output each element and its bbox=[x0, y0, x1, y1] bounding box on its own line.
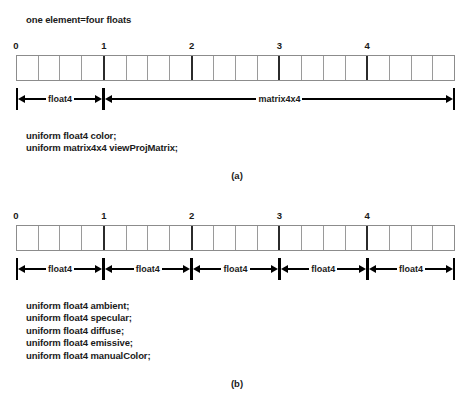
figure-a-span-label: float4 bbox=[46, 94, 74, 104]
figure-b-span-cap-right bbox=[453, 258, 455, 280]
arrow-right-icon bbox=[95, 265, 102, 273]
figure-a-cell bbox=[280, 56, 302, 80]
figure-b-span-rule bbox=[376, 268, 397, 269]
figure-b-cell bbox=[127, 226, 149, 250]
figure-a-register-bar bbox=[16, 55, 455, 81]
figure-b-cell bbox=[193, 226, 215, 250]
arrow-left-icon bbox=[18, 95, 25, 103]
figure-b-cell bbox=[346, 226, 369, 250]
figure-a-cell bbox=[324, 56, 346, 80]
figure-b-span-rule bbox=[200, 268, 221, 269]
arrow-right-icon bbox=[446, 265, 453, 273]
figure-a-cell bbox=[17, 56, 39, 80]
figure-b-tick-3: 3 bbox=[277, 210, 282, 222]
figure-a-span-label: matrix4x4 bbox=[256, 94, 302, 104]
figure-a-span-rule bbox=[112, 98, 256, 99]
figure-b-cell bbox=[170, 226, 193, 250]
figure-a-tick-1: 1 bbox=[101, 40, 106, 52]
arrow-left-icon bbox=[193, 265, 200, 273]
figure-a-cell bbox=[368, 56, 390, 80]
figure-b-cell bbox=[60, 226, 82, 250]
arrow-right-icon bbox=[446, 95, 453, 103]
figure-a-cell bbox=[105, 56, 127, 80]
figure-b-code-line: uniform float4 specular; bbox=[26, 312, 151, 324]
arrow-right-icon bbox=[183, 265, 190, 273]
arrow-right-icon bbox=[359, 265, 366, 273]
figure-b-span-rule bbox=[25, 268, 46, 269]
figure-b-span: float4 bbox=[279, 258, 367, 280]
figure-a-cell bbox=[214, 56, 236, 80]
figure-a-cell bbox=[390, 56, 412, 80]
figure-a-span-rule bbox=[74, 98, 95, 99]
figure-a-cell bbox=[39, 56, 61, 80]
figure-a-cell bbox=[433, 56, 454, 80]
figure-b-span-rule bbox=[74, 268, 95, 269]
figure-a-cell bbox=[127, 56, 149, 80]
figure-a-tick-0: 0 bbox=[13, 40, 18, 52]
figure-b-code-line: uniform float4 emissive; bbox=[26, 337, 151, 349]
figure-b-span-rule bbox=[425, 268, 446, 269]
figure-b-span-label: float4 bbox=[134, 264, 162, 274]
figure-a-cell bbox=[170, 56, 193, 80]
figure-b-cell bbox=[433, 226, 454, 250]
figure-b-span-label: float4 bbox=[46, 264, 74, 274]
figure-b-code-line: uniform float4 manualColor; bbox=[26, 350, 151, 362]
figure-b-cell bbox=[280, 226, 302, 250]
figure-b-cell bbox=[368, 226, 390, 250]
figure-b-cell bbox=[324, 226, 346, 250]
figure-a-cell bbox=[60, 56, 82, 80]
figure-b-cell bbox=[214, 226, 236, 250]
figure-b-tick-4: 4 bbox=[365, 210, 370, 222]
figure-a-cell bbox=[346, 56, 369, 80]
figure-b-span: float4 bbox=[104, 258, 192, 280]
figure-b-caption: (b) bbox=[0, 378, 474, 389]
figure-b-register-bar bbox=[16, 225, 455, 251]
figure-a-note: one element=four floats bbox=[26, 14, 131, 25]
figure-a-cell bbox=[258, 56, 281, 80]
figure-b-cell bbox=[390, 226, 412, 250]
figure-b-span-rule bbox=[112, 268, 133, 269]
figure-a-code-line: uniform float4 color; bbox=[26, 130, 178, 142]
figure-b-tick-2: 2 bbox=[189, 210, 194, 222]
figure-a-span: matrix4x4 bbox=[104, 88, 455, 110]
figure-a-cell bbox=[193, 56, 215, 80]
figure-b-code-line: uniform float4 ambient; bbox=[26, 300, 151, 312]
figure-b-cell bbox=[302, 226, 324, 250]
figure-b-cell bbox=[82, 226, 105, 250]
figure-b-span: float4 bbox=[192, 258, 280, 280]
figure-a-cell bbox=[82, 56, 105, 80]
figure-a-cell bbox=[302, 56, 324, 80]
figure-b-cell bbox=[39, 226, 61, 250]
figure-b-span-rule bbox=[162, 268, 183, 269]
figure-b-span-label: float4 bbox=[397, 264, 425, 274]
figure-b-ruler: 01234 bbox=[16, 210, 455, 225]
figure-a-span-row: float4matrix4x4 bbox=[16, 88, 455, 110]
figure-b-tick-0: 0 bbox=[13, 210, 18, 222]
figure-a-code-listing: uniform float4 color;uniform matrix4x4 v… bbox=[26, 130, 178, 155]
figure-a-code-line: uniform matrix4x4 viewProjMatrix; bbox=[26, 142, 178, 154]
figure-b-cell bbox=[258, 226, 281, 250]
arrow-right-icon bbox=[271, 265, 278, 273]
figure-b-tick-1: 1 bbox=[101, 210, 106, 222]
figure-a-span-rule bbox=[302, 98, 446, 99]
figure-b-cell bbox=[148, 226, 170, 250]
figure-b-span-label: float4 bbox=[309, 264, 337, 274]
arrow-right-icon bbox=[95, 95, 102, 103]
arrow-left-icon bbox=[105, 95, 112, 103]
figure-a-tick-3: 3 bbox=[277, 40, 282, 52]
arrow-left-icon bbox=[281, 265, 288, 273]
figure-b-span: float4 bbox=[16, 258, 104, 280]
figure-a-tick-2: 2 bbox=[189, 40, 194, 52]
figure-b-cell bbox=[105, 226, 127, 250]
figure-b-span-rule bbox=[337, 268, 358, 269]
figure-b-cell bbox=[236, 226, 258, 250]
figure-a-cell bbox=[236, 56, 258, 80]
figure-b-code-line: uniform float4 diffuse; bbox=[26, 325, 151, 337]
arrow-left-icon bbox=[18, 265, 25, 273]
figure-b-span: float4 bbox=[367, 258, 455, 280]
figure-b-span-label: float4 bbox=[221, 264, 249, 274]
figure-a-span-rule bbox=[25, 98, 46, 99]
arrow-left-icon bbox=[369, 265, 376, 273]
figure-a-tick-4: 4 bbox=[365, 40, 370, 52]
figure-a-ruler: 01234 bbox=[16, 40, 455, 55]
